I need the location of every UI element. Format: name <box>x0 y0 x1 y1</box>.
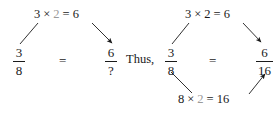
left-top-left-line <box>20 23 38 44</box>
right-top-left-line <box>172 23 189 44</box>
right-bottom-result: 16 <box>217 92 230 106</box>
figure-canvas: 3×2=6 3 8 = 6 ? Thus, 3×2=6 3 8 = 6 16 8… <box>0 0 276 114</box>
right-top-times-icon: × <box>191 7 204 21</box>
right-fraction-six-sixteenths: 6 16 <box>256 46 273 77</box>
right-bottom-times-icon: × <box>184 92 197 106</box>
left-top-times-icon: × <box>40 7 53 21</box>
left-result-denominator: ? <box>105 63 117 78</box>
left-fraction-numerator: 3 <box>13 46 25 61</box>
right-relation-equals: = <box>209 54 216 67</box>
left-fraction-six-over-unknown: 6 ? <box>105 46 117 77</box>
right-top-equation: 3×2=6 <box>185 8 230 21</box>
left-top-operand-b: 2 <box>53 7 59 21</box>
right-bottom-equals: = <box>204 92 217 106</box>
right-bottom-operand-b: 2 <box>197 92 203 106</box>
left-top-right-arrow <box>92 23 112 43</box>
right-top-right-arrow <box>243 23 261 42</box>
thus-label: Thus, <box>126 53 154 66</box>
right-result-numerator: 6 <box>256 46 273 61</box>
left-result-numerator: 6 <box>105 46 117 61</box>
left-relation-equals: = <box>59 54 66 67</box>
right-bottom-equation: 8×2=16 <box>178 93 229 106</box>
right-fraction-numerator: 3 <box>165 46 177 61</box>
left-fraction-three-eighths: 3 8 <box>13 46 25 77</box>
right-result-denominator: 16 <box>256 63 273 78</box>
right-top-equals: = <box>211 7 224 21</box>
left-fraction-denominator: 8 <box>13 63 25 78</box>
left-top-equals: = <box>60 7 73 21</box>
right-fraction-denominator: 8 <box>165 63 177 78</box>
left-top-equation: 3×2=6 <box>34 8 79 21</box>
right-top-result: 6 <box>224 7 230 21</box>
right-top-operand-b: 2 <box>204 7 210 21</box>
right-fraction-three-eighths: 3 8 <box>165 46 177 77</box>
left-top-result: 6 <box>73 7 79 21</box>
